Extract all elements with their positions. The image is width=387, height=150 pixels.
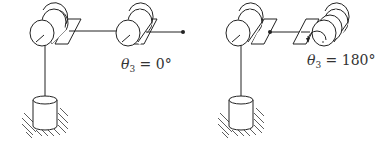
- base-cylinder-left: [33, 96, 57, 130]
- theta3-label-right: θ3 = 180°: [307, 52, 376, 70]
- robot-arm-figure: θ3 = 0°: [0, 0, 387, 150]
- shoulder-joint-left: [30, 3, 81, 46]
- base-cylinder-right: [229, 96, 253, 130]
- config-right: θ3 = 180°: [218, 3, 376, 138]
- shoulder-joint-right: [226, 3, 277, 46]
- elbow-joint-right: [293, 3, 349, 46]
- end-point-left: [181, 30, 185, 34]
- config-left: θ3 = 0°: [22, 3, 185, 138]
- elbow-joint-left: [116, 3, 157, 46]
- theta3-label-left: θ3 = 0°: [121, 56, 172, 74]
